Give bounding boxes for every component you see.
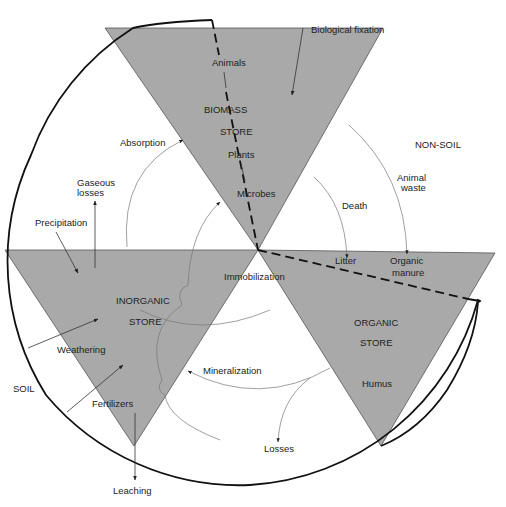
label-inorganic: INORGANIC	[116, 295, 170, 306]
label-animals: Animals	[212, 57, 246, 68]
inorganic-store-triangle	[5, 250, 258, 446]
absorption-arc	[126, 140, 183, 247]
animal-waste-arc	[349, 125, 407, 254]
label-death: Death	[342, 200, 367, 211]
label-organic-manure-1: Organic	[390, 255, 424, 266]
label-biomass-store: STORE	[220, 126, 253, 137]
label-animal-waste-2: waste	[400, 182, 426, 193]
label-precipitation: Precipitation	[35, 217, 87, 228]
death-arc	[314, 177, 347, 258]
label-plants: Plants	[228, 149, 255, 160]
label-absorption: Absorption	[120, 137, 165, 148]
label-organic-store: STORE	[360, 337, 393, 348]
label-fertilizers: Fertilizers	[92, 398, 133, 409]
label-organic-manure-2: manure	[392, 267, 424, 278]
label-organic: ORGANIC	[354, 317, 398, 328]
label-weathering: Weathering	[57, 344, 105, 355]
label-soil: SOIL	[13, 383, 35, 394]
losses-arc	[278, 378, 310, 442]
label-biomass: BIOMASS	[204, 104, 247, 115]
label-humus: Humus	[362, 378, 392, 389]
nutrient-cycle-diagram: Biological fixation Animals BIOMASS STOR…	[0, 0, 506, 507]
label-losses-gas: losses	[77, 187, 104, 198]
label-immobilization: Immobilization	[224, 271, 285, 282]
label-litter: Litter	[335, 255, 356, 266]
label-losses: Losses	[264, 443, 294, 454]
label-non-soil: NON-SOIL	[415, 139, 461, 150]
label-inorganic-store: STORE	[129, 316, 162, 327]
label-mineralization: Mineralization	[203, 365, 262, 376]
label-biological-fixation: Biological fixation	[311, 24, 384, 35]
label-leaching: Leaching	[113, 485, 152, 496]
label-microbes: Microbes	[237, 188, 276, 199]
